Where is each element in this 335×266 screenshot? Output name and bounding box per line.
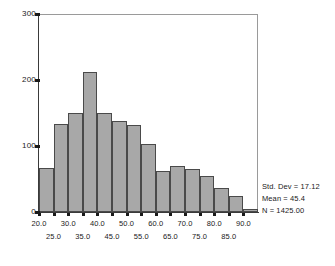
x-axis-tick: [111, 213, 114, 216]
statistics-legend: Std. Dev = 17.12 Mean = 45.4 N = 1425.00: [262, 181, 335, 217]
histogram-bar: [68, 113, 83, 212]
histogram-bar: [141, 144, 156, 212]
histogram-bar: [112, 121, 127, 212]
x-axis-tick: [213, 213, 216, 216]
histogram-bar: [200, 176, 215, 212]
histogram-bar: [54, 124, 69, 212]
y-axis-tick-label: 200: [2, 75, 36, 84]
x-axis-tick-label: 40.0: [84, 219, 110, 228]
histogram-bar: [229, 196, 244, 213]
x-axis-tick-label: 80.0: [201, 219, 227, 228]
histogram-bar: [39, 168, 54, 212]
histogram-bar: [83, 72, 98, 212]
x-axis-tick: [53, 213, 56, 216]
x-axis-tick-label: 65.0: [157, 232, 183, 241]
histogram-bar: [243, 209, 258, 212]
y-axis-tick-label: 0: [2, 207, 36, 216]
x-axis-tick: [38, 213, 41, 216]
x-axis-tick: [169, 213, 172, 216]
x-axis-tick-label: 70.0: [172, 219, 198, 228]
histogram-bar: [185, 169, 200, 212]
x-axis-tick-label: 75.0: [187, 232, 213, 241]
x-axis-tick: [126, 213, 129, 216]
x-axis-tick: [199, 213, 202, 216]
x-axis-tick: [140, 213, 143, 216]
x-axis-tick-label: 35.0: [70, 232, 96, 241]
y-axis-tick-label: 300: [2, 9, 36, 18]
x-axis-tick: [228, 213, 231, 216]
x-axis-tick-label: 90.0: [230, 219, 256, 228]
x-axis-tick: [155, 213, 158, 216]
x-axis-tick-label: 60.0: [143, 219, 169, 228]
x-axis-tick-label: 85.0: [216, 232, 242, 241]
stat-std-dev: Std. Dev = 17.12: [262, 181, 335, 193]
histogram-chart: 0100200300 20.030.040.050.060.070.080.09…: [0, 0, 335, 266]
x-axis-tick: [67, 213, 70, 216]
x-axis-tick: [96, 213, 99, 216]
x-axis-tick-label: 50.0: [114, 219, 140, 228]
x-axis-line: [38, 212, 259, 213]
bar-series: [39, 14, 258, 212]
x-axis-tick: [184, 213, 187, 216]
histogram-bar: [97, 113, 112, 212]
x-axis-tick-label: 45.0: [99, 232, 125, 241]
x-axis-tick: [242, 213, 245, 216]
histogram-bar: [214, 188, 229, 212]
x-axis-tick-label: 20.0: [26, 219, 52, 228]
histogram-bar: [127, 125, 142, 212]
x-axis-tick-label: 30.0: [55, 219, 81, 228]
stat-mean: Mean = 45.4: [262, 193, 335, 205]
x-axis-tick-label: 25.0: [41, 232, 67, 241]
y-axis-tick-label: 100: [2, 141, 36, 150]
stat-n: N = 1425.00: [262, 205, 335, 217]
histogram-bar: [170, 166, 185, 212]
histogram-bar: [156, 171, 171, 212]
x-axis-tick: [82, 213, 85, 216]
x-axis-tick-label: 55.0: [128, 232, 154, 241]
